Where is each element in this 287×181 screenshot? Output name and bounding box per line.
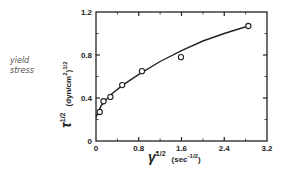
x-axis-close: ) bbox=[198, 155, 201, 164]
y-axis-unit: (dyn/cm bbox=[64, 76, 73, 107]
data-point bbox=[120, 83, 125, 88]
plot-frame bbox=[96, 12, 267, 141]
data-point bbox=[101, 99, 106, 104]
x-tick-label: 0.8 bbox=[133, 144, 145, 153]
x-axis-label: γ̇1/2(sec-1/2) bbox=[148, 149, 201, 165]
data-point bbox=[108, 94, 113, 99]
x-tick-label: 1.6 bbox=[176, 144, 188, 153]
data-point bbox=[97, 109, 102, 114]
y-axis-label: τ1/2(dyn/cm2)1/2 bbox=[58, 61, 74, 128]
x-tick-label: 0 bbox=[94, 144, 99, 153]
data-points bbox=[97, 23, 251, 114]
y-tick-label: 1.2 bbox=[81, 8, 93, 17]
y-axis-close-exp: 1/2 bbox=[62, 61, 68, 70]
x-axis-exp: 1/2 bbox=[156, 150, 166, 157]
y-tick-label: 0.8 bbox=[81, 51, 93, 60]
y-tick-label: 0 bbox=[88, 137, 93, 146]
x-axis-unit-exp: -1/2 bbox=[188, 153, 199, 159]
data-point bbox=[246, 23, 251, 28]
x-axis-unit: (sec bbox=[172, 155, 189, 164]
x-tick-label: 3.2 bbox=[261, 144, 273, 153]
data-point bbox=[178, 55, 183, 60]
y-tick-label: 0.4 bbox=[81, 94, 93, 103]
x-tick-label: 2.4 bbox=[219, 144, 231, 153]
fit-curve bbox=[96, 26, 248, 117]
y-axis-exp: 1/2 bbox=[59, 112, 66, 122]
data-point bbox=[139, 69, 144, 74]
chart: 00.81.62.43.2 00.40.81.2 γ̇1/2(sec-1/2) … bbox=[0, 0, 287, 181]
